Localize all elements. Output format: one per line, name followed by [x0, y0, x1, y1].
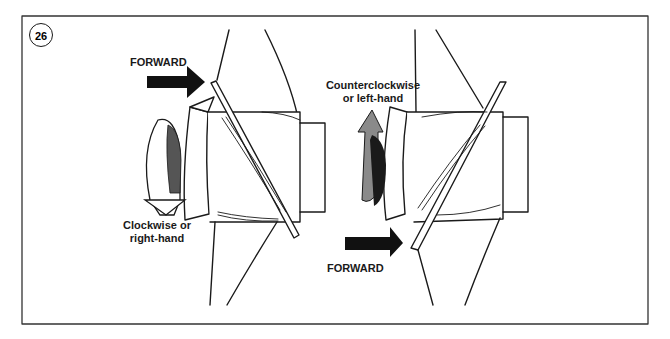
- figure-frame: [22, 16, 648, 324]
- rotation-label-left-line1: Clockwise or: [117, 219, 197, 232]
- forward-arrow-right-icon: [345, 227, 403, 257]
- left-propeller: [184, 30, 325, 305]
- rotation-label-right-line1: Counterclockwise: [318, 79, 428, 92]
- rotation-label-left-line2: right-hand: [117, 232, 197, 245]
- forward-label-right: FORWARD: [327, 262, 384, 275]
- diagram-canvas: [0, 0, 670, 339]
- clockwise-rotation-icon: [145, 119, 185, 215]
- right-propeller: [384, 30, 528, 305]
- counterclockwise-rotation-icon: [358, 110, 386, 206]
- rotation-label-right-line2: or left-hand: [318, 92, 428, 105]
- forward-label-left: FORWARD: [130, 56, 187, 69]
- forward-arrow-left-icon: [147, 66, 205, 98]
- figure-number-badge: 26: [29, 23, 53, 47]
